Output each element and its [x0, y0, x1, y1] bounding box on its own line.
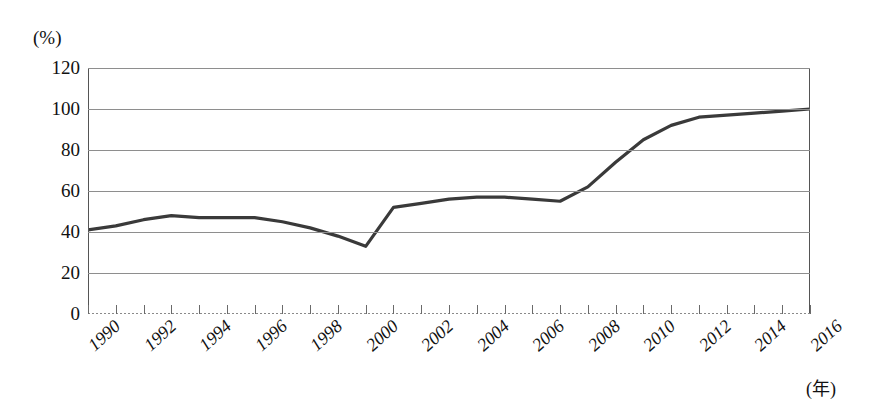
x-tick-2006 — [532, 305, 533, 314]
x-tick-label-1996: 1996 — [251, 316, 292, 356]
x-tick-1990 — [88, 305, 89, 314]
x-tick-1995 — [227, 305, 228, 314]
x-tick-1992 — [144, 305, 145, 314]
x-tick-2011 — [671, 305, 672, 314]
x-tick-1999 — [338, 305, 339, 314]
y-tick-label-80: 80 — [10, 140, 80, 159]
x-tick-label-2010: 2010 — [639, 316, 680, 356]
gridline-20 — [88, 273, 810, 274]
line-chart-figure: (%) 020406080100120 (年) 1990199219941996… — [0, 0, 875, 410]
x-axis-unit-label: (年) — [806, 374, 836, 400]
x-tick-2014 — [754, 305, 755, 314]
x-tick-2009 — [616, 305, 617, 314]
y-tick-label-100: 100 — [10, 99, 80, 118]
x-tick-2016 — [810, 305, 811, 314]
x-tick-1996 — [255, 305, 256, 314]
x-tick-2003 — [449, 305, 450, 314]
gridline-80 — [88, 150, 810, 151]
x-tick-label-2016: 2016 — [806, 316, 847, 356]
x-tick-label-2004: 2004 — [473, 316, 514, 356]
x-tick-label-2008: 2008 — [584, 316, 625, 356]
x-tick-label-1998: 1998 — [306, 316, 347, 356]
x-tick-1993 — [171, 305, 172, 314]
y-tick-label-60: 60 — [10, 181, 80, 200]
x-tick-1997 — [282, 305, 283, 314]
y-tick-label-20: 20 — [10, 263, 80, 282]
plot-area — [88, 68, 810, 314]
gridline-60 — [88, 191, 810, 192]
x-tick-label-1990: 1990 — [84, 316, 125, 356]
x-tick-2000 — [366, 305, 367, 314]
x-tick-1998 — [310, 305, 311, 314]
x-tick-2012 — [699, 305, 700, 314]
x-tick-2010 — [643, 305, 644, 314]
x-tick-2013 — [727, 305, 728, 314]
x-tick-1994 — [199, 305, 200, 314]
gridline-120 — [88, 68, 810, 69]
x-tick-2002 — [421, 305, 422, 314]
x-tick-2015 — [782, 305, 783, 314]
x-tick-label-2000: 2000 — [362, 316, 403, 356]
x-tick-1991 — [116, 305, 117, 314]
x-tick-2005 — [505, 305, 506, 314]
x-tick-2008 — [588, 305, 589, 314]
x-tick-2007 — [560, 305, 561, 314]
y-tick-label-120: 120 — [10, 58, 80, 77]
x-tick-label-2014: 2014 — [750, 316, 791, 356]
x-tick-2001 — [393, 305, 394, 314]
gridline-100 — [88, 109, 810, 110]
x-tick-label-2002: 2002 — [417, 316, 458, 356]
x-tick-label-2012: 2012 — [695, 316, 736, 356]
x-tick-label-1994: 1994 — [195, 316, 236, 356]
y-tick-label-40: 40 — [10, 222, 80, 241]
x-tick-label-1992: 1992 — [140, 316, 181, 356]
x-tick-label-2006: 2006 — [528, 316, 569, 356]
x-axis-tick-labels: (年) 199019921994199619982000200220042006… — [0, 314, 875, 410]
gridline-40 — [88, 232, 810, 233]
x-tick-2004 — [477, 305, 478, 314]
